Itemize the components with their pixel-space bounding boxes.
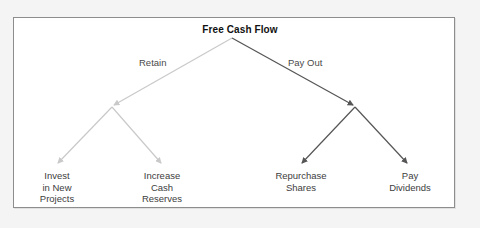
edge-label-retain: Retain	[139, 57, 166, 68]
node-increase-cash-reserves: Increase Cash Reserves	[120, 170, 204, 205]
diagram-title: Free Cash Flow	[0, 24, 480, 35]
diagram-canvas: Free Cash Flow Retain Pay Out Invest in …	[0, 0, 480, 228]
node-pay-dividends: Pay Dividends	[370, 170, 450, 193]
node-repurchase-shares: Repurchase Shares	[258, 170, 344, 193]
node-invest-in-new-projects: Invest in New Projects	[15, 170, 99, 205]
edge-label-pay-out: Pay Out	[288, 57, 322, 68]
